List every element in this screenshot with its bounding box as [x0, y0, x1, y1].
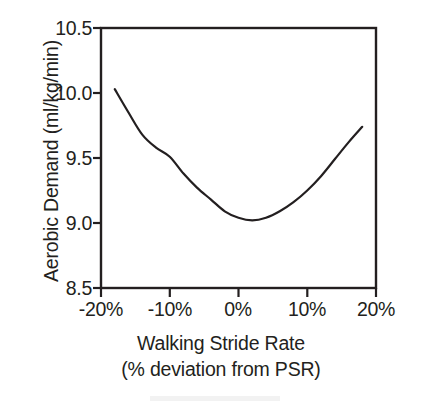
x-axis-title-line1: Walking Stride Rate: [61, 330, 381, 356]
aerobic-demand-chart-figure: Aerobic Demand (ml/kg/min) 10.5 10.0 9.5…: [0, 0, 422, 404]
x-tick-label-minus-20: -20%: [64, 297, 138, 321]
x-tick-label-plus-10: 10%: [270, 297, 344, 321]
scan-artifact: [150, 396, 280, 401]
x-tick-label-plus-20: 20%: [339, 297, 413, 321]
x-axis-title: Walking Stride Rate (% deviation from PS…: [61, 330, 381, 382]
x-axis-tick-labels: -20% -10% 0% 10% 20%: [0, 297, 422, 323]
x-axis-title-line2: (% deviation from PSR): [61, 356, 381, 382]
x-tick-label-zero: 0%: [201, 297, 275, 321]
x-axis-ticks: [101, 288, 376, 297]
x-tick-label-minus-10: -10%: [133, 297, 207, 321]
data-series-line: [115, 89, 363, 220]
